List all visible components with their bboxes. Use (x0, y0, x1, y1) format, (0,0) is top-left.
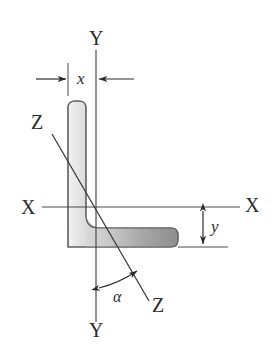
alpha-angle-arc (99, 271, 137, 288)
alpha-angle-annotation (99, 271, 137, 288)
z-axis-label-upper: Z (31, 112, 43, 132)
x-dimension-annotation (36, 63, 134, 96)
x-axis-label-right: X (245, 195, 259, 215)
angle-section-shape (68, 101, 178, 247)
y-axis-label-bottom: Y (89, 320, 103, 340)
alpha-angle-label: α (113, 289, 121, 305)
x-axis-label-left: X (21, 197, 35, 217)
y-dimension-annotation (178, 211, 228, 247)
y-axis-label-top: Y (89, 28, 103, 48)
section-outline (68, 101, 178, 247)
y-dimension-label: y (211, 218, 219, 235)
z-axis-line (52, 134, 149, 301)
angle-section-figure: Y Y X X Z Z x y α (0, 0, 272, 356)
diagram-canvas (0, 0, 272, 356)
z-axis-label-lower: Z (152, 295, 164, 315)
section-flange-shading (86, 228, 178, 247)
x-dimension-label: x (77, 70, 85, 87)
